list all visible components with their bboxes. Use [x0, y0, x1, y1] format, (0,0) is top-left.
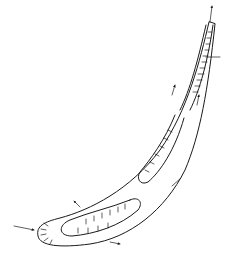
film-arrow-icon	[172, 85, 175, 95]
film-arrow-icon	[74, 201, 80, 207]
leading-edge-impingement	[41, 223, 52, 244]
airfoil-outline	[38, 22, 215, 246]
film-arrow-icon	[197, 95, 199, 105]
flow-arrows	[14, 6, 220, 244]
trailing-edge-passage	[180, 25, 213, 110]
coolant-inlet-arrow-icon	[14, 226, 34, 230]
trailing-edge-exit-arrow-icon	[210, 6, 212, 22]
turbine-blade-diagram	[0, 0, 234, 262]
film-arrow-icon	[110, 242, 120, 244]
